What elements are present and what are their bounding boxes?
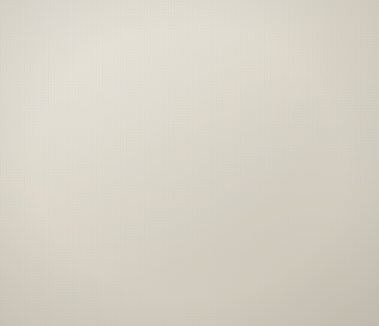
plot-area bbox=[0, 0, 379, 326]
bar-chart-figure bbox=[0, 0, 379, 326]
